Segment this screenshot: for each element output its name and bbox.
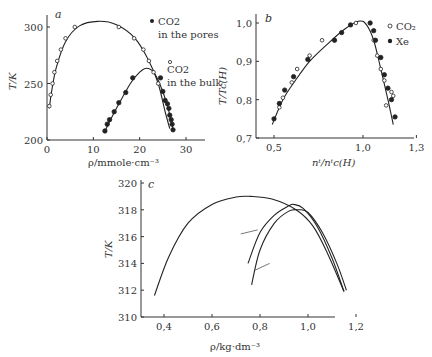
panel-c: 0,40,60,81,01,2310312314316318320 c ρ/kg… [103, 178, 364, 352]
open-data-point [384, 104, 388, 108]
filled-data-point [124, 90, 128, 94]
open-data-point [142, 48, 146, 52]
legend-bulk-line1: CO2 [167, 64, 189, 75]
open-data-point [73, 25, 77, 29]
panel-b: 0,51,01,30,70,80,91,0 b nᵗ/nᵗc(H) T/Tc(H… [217, 12, 424, 168]
filled-data-point [103, 129, 107, 133]
legend-xe-marker [388, 39, 392, 43]
open-data-point [281, 96, 285, 100]
filled-data-point [306, 57, 310, 61]
filled-data-point [272, 117, 276, 121]
panel-b-ylabel: T/Tc(H) [217, 67, 228, 105]
y-tick-label: 0,8 [236, 95, 252, 106]
open-data-point [59, 48, 63, 52]
legend-bulk-line2: in the bulk [167, 77, 222, 88]
filled-data-point [382, 73, 386, 77]
x-tick-label: 0,5 [266, 142, 282, 153]
y-tick-label: 0,9 [236, 56, 252, 67]
open-data-point [64, 37, 68, 41]
open-data-point [290, 81, 294, 85]
open-data-point [117, 25, 121, 29]
curve [252, 210, 347, 291]
x-tick-label: 0,8 [252, 321, 268, 332]
legend-filled-marker [150, 19, 154, 23]
filled-data-point [386, 86, 390, 90]
open-data-point [147, 59, 151, 63]
y-tick-label: 312 [118, 285, 137, 296]
panel-c-letter: c [148, 178, 154, 191]
filled-data-point [107, 117, 111, 121]
y-tick-label: 314 [118, 258, 137, 269]
y-tick-label: 300 [24, 22, 43, 33]
open-data-point [391, 94, 395, 98]
figure: 0102030200250300 a ρ/mmole·cm⁻³ T/K CO2 … [0, 0, 432, 357]
filled-data-point [117, 101, 121, 105]
open-data-point [320, 38, 324, 42]
curve [272, 21, 393, 125]
legend-pores-line1: CO2 [158, 16, 180, 27]
panel-b-xlabel: nᵗ/nᵗc(H) [312, 157, 355, 168]
filled-data-point [371, 28, 375, 32]
y-tick-label: 200 [24, 135, 43, 146]
filled-data-point [169, 117, 173, 121]
open-data-point [354, 21, 358, 25]
panel-a-letter: a [55, 8, 62, 21]
y-tick-label: 320 [118, 178, 137, 189]
x-tick-label: 20 [133, 144, 146, 155]
panel-b-letter: b [265, 12, 272, 25]
y-tick-label: 318 [118, 205, 137, 216]
filled-data-point [168, 113, 172, 117]
panel-a: 0102030200250300 a ρ/mmole·cm⁻³ T/K CO2 … [7, 8, 222, 168]
panel-c-ylabel: T/K [103, 240, 114, 258]
open-data-point [295, 67, 299, 71]
x-tick-label: 10 [87, 144, 100, 155]
curve [154, 196, 344, 295]
filled-data-point [165, 102, 169, 106]
filled-data-point [167, 106, 171, 110]
filled-data-point [373, 38, 377, 42]
filled-data-point [131, 76, 135, 80]
open-data-point [55, 59, 59, 63]
open-data-point [49, 93, 53, 97]
filled-data-point [171, 128, 175, 132]
open-data-point [51, 82, 55, 86]
open-data-point [383, 79, 387, 83]
y-tick-label: 0,7 [236, 133, 252, 144]
y-tick-label: 316 [118, 232, 137, 243]
filled-data-point [158, 76, 162, 80]
y-tick-label: 250 [24, 79, 43, 90]
filled-data-point [393, 115, 397, 119]
filled-data-point [277, 101, 281, 105]
panel-c-xlabel: ρ/kg·dm⁻³ [210, 341, 260, 352]
filled-data-point [389, 97, 393, 101]
filled-data-point [291, 74, 295, 78]
open-data-point [156, 82, 160, 86]
panel-a-ylabel: T/K [7, 72, 18, 90]
open-data-point [379, 67, 383, 71]
x-tick-label: 0,6 [204, 321, 220, 332]
filled-data-point [379, 55, 383, 59]
open-data-point [152, 70, 156, 74]
legend-xe-label: Xe [396, 36, 409, 47]
open-data-point [48, 104, 52, 108]
x-tick-label: 1,3 [408, 142, 424, 153]
filled-data-point [112, 110, 116, 114]
x-tick-label: 30 [180, 144, 193, 155]
annotation-line [255, 263, 269, 270]
legend-pores-line2: in the pores [158, 29, 219, 40]
legend-co2-marker [388, 24, 392, 28]
filled-data-point [368, 21, 372, 25]
filled-data-point [161, 89, 165, 93]
open-data-point [132, 37, 136, 41]
filled-data-point [339, 30, 343, 34]
x-tick-label: 0,4 [156, 321, 172, 332]
filled-data-point [282, 88, 286, 92]
open-data-point [53, 70, 57, 74]
filled-data-point [170, 122, 174, 126]
x-tick-label: 1,2 [348, 321, 364, 332]
y-tick-label: 310 [118, 312, 137, 323]
panel-a-xlabel: ρ/mmole·cm⁻³ [88, 157, 159, 168]
y-tick-label: 1,0 [236, 18, 252, 29]
legend-co2-label: CO₂ [396, 21, 416, 32]
filled-data-point [105, 122, 109, 126]
